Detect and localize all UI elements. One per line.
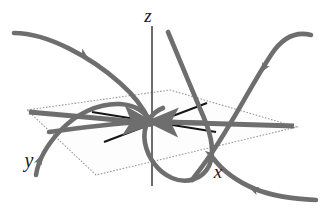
plane-arrow-inner-right bbox=[164, 122, 205, 123]
origin-equilibrium-point bbox=[145, 117, 155, 127]
phase-portrait-figure: z x y bbox=[0, 0, 329, 220]
phase-portrait-canvas: z x y bbox=[0, 0, 329, 220]
z-axis-label: z bbox=[143, 5, 152, 26]
x-axis-label: x bbox=[213, 161, 223, 182]
y-axis-label: y bbox=[23, 149, 34, 172]
